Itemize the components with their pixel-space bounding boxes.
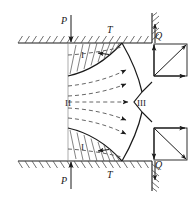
force-parallelogram-bottom [154, 128, 187, 160]
top-wall-hatching [18, 36, 149, 43]
exit-boundary-upper-tip [142, 82, 152, 92]
bottom-wall [18, 161, 152, 168]
extrusion-slip-line-figure: I I II III P [0, 0, 194, 204]
zone-one-top-label: I [81, 50, 84, 60]
applied-load-top: P [60, 15, 71, 42]
zone-one-bottom-hatching [70, 130, 120, 161]
streamline-5 [68, 108, 126, 120]
zone-one-top-slip-boundary [68, 43, 122, 76]
load-label-top: P [60, 15, 67, 26]
reaction-label-top: Q [155, 30, 163, 41]
top-wall [18, 36, 152, 43]
zone-two-label: II [65, 98, 71, 108]
bottom-wall-hatching [18, 161, 149, 168]
zone-one-bottom-shear-arrow [98, 150, 109, 152]
streamline-2 [68, 70, 126, 86]
applied-load-bottom: P [60, 162, 71, 189]
figure-canvas: I I II III P [0, 0, 194, 204]
zone-one-top-hatching [70, 43, 120, 74]
friction-label-bottom: T [107, 169, 114, 180]
dead-metal-zone-bottom: I [68, 128, 122, 161]
load-label-bottom: P [60, 175, 67, 186]
zone-three-label: III [137, 98, 146, 108]
dead-metal-zone-top: I [68, 43, 122, 76]
force-resultant-top [154, 45, 186, 76]
exit-boundary-lower-tip [142, 112, 152, 122]
zone-one-bottom-slip-boundary [68, 128, 122, 161]
streamline-6 [68, 118, 126, 134]
zone-one-top-shear-arrow [98, 53, 109, 55]
streamline-3 [68, 84, 126, 96]
friction-label-top: T [107, 24, 114, 35]
force-resultant-bottom [154, 128, 186, 159]
reaction-label-bottom: Q [155, 159, 163, 170]
force-parallelogram-top [154, 44, 187, 76]
